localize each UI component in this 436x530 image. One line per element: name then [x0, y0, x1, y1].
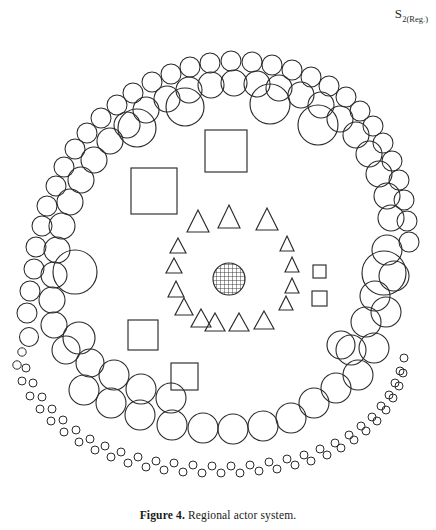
core-hatched-circle [213, 263, 245, 295]
square-ring [128, 130, 327, 390]
figure-caption-text: Regional actor system. [188, 509, 296, 521]
regional-actor-system-diagram [0, 0, 436, 530]
large-circle-ring [53, 84, 406, 359]
figure-caption: Figure 4. Regional actor system. [0, 509, 436, 521]
figure-container: S2(Reg.) Figure 4. Regional actor system… [0, 0, 436, 530]
system-label: S2(Reg.) [395, 6, 428, 24]
tiny-circle-ring [13, 348, 408, 477]
figure-caption-number: Figure 4. [140, 509, 185, 521]
system-label-subscript: 2(Reg.) [402, 14, 428, 24]
